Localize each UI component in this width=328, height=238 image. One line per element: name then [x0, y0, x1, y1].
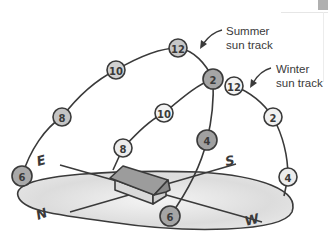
- svg-text:4: 4: [204, 136, 211, 147]
- south-mark: S: [224, 153, 236, 169]
- winter-label-line1: Winter: [276, 63, 309, 75]
- svg-text:10: 10: [157, 109, 171, 120]
- winter-arrow-icon: [253, 68, 271, 83]
- svg-text:12: 12: [171, 44, 185, 55]
- svg-text:6: 6: [167, 212, 174, 223]
- winter-node-4pm: 4: [279, 168, 297, 186]
- summer-track-callout: Summer sun track: [200, 25, 273, 51]
- winter-node-10am: 10: [155, 104, 173, 122]
- winter-track-callout: Winter sun track: [250, 63, 323, 89]
- summer-node-8am: 8: [53, 108, 71, 126]
- summer-node-12pm: 12: [169, 39, 187, 57]
- east-mark: E: [35, 152, 48, 169]
- winter-node-12pm: 12: [225, 77, 243, 95]
- winter-node-2pm: 2: [264, 108, 282, 126]
- svg-text:2: 2: [210, 75, 217, 86]
- summer-node-10am: 10: [107, 61, 125, 79]
- summer-label-line2: sun track: [226, 39, 273, 51]
- winter-track-path: [123, 79, 288, 177]
- svg-text:6: 6: [19, 172, 26, 183]
- sun-track-diagram: E S W N 6 8 10 12 2 4 6 8 10 12 2 4 Summ…: [0, 0, 328, 238]
- svg-text:12: 12: [227, 82, 241, 93]
- summer-node-4pm: 4: [197, 130, 217, 150]
- svg-text:8: 8: [120, 144, 127, 155]
- summer-node-6pm: 6: [160, 206, 180, 226]
- summer-node-2pm: 2: [203, 69, 223, 89]
- summer-arrow-icon: [203, 30, 222, 44]
- summer-label-line1: Summer: [226, 25, 270, 37]
- svg-text:8: 8: [59, 113, 66, 124]
- winter-label-line2: sun track: [276, 77, 323, 89]
- svg-text:10: 10: [109, 66, 123, 77]
- winter-node-8am: 8: [114, 139, 132, 157]
- summer-node-6am: 6: [12, 166, 32, 186]
- svg-text:2: 2: [270, 113, 277, 124]
- svg-text:4: 4: [285, 173, 292, 184]
